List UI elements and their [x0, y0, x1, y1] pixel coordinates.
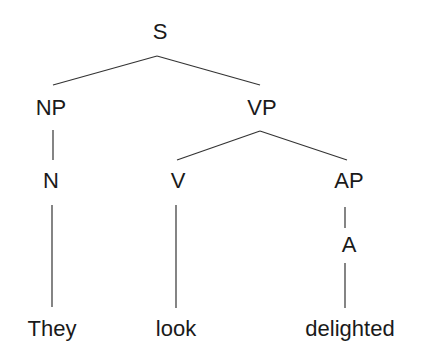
leaf-they: They — [28, 318, 77, 340]
node-a: A — [342, 234, 357, 256]
edge-vp-v — [177, 131, 260, 160]
edge-vp-ap — [260, 131, 347, 160]
edge-s-np — [53, 56, 157, 85]
node-np: NP — [36, 97, 67, 119]
node-vp: VP — [247, 97, 276, 119]
edge-s-vp — [157, 56, 260, 85]
node-n: N — [43, 170, 59, 192]
leaf-delighted: delighted — [305, 318, 394, 340]
leaf-look: look — [156, 318, 196, 340]
node-ap: AP — [334, 170, 363, 192]
node-v: V — [171, 170, 186, 192]
node-s: S — [153, 21, 168, 43]
